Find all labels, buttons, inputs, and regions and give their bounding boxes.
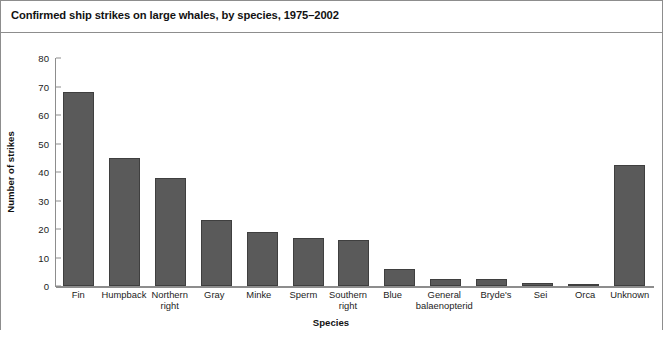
x-tick-label: Gray (192, 290, 237, 311)
bar-slot (148, 58, 194, 286)
y-tick-label: 0 (44, 281, 56, 292)
bar[interactable] (155, 178, 186, 286)
x-tick-label: Northernright (147, 290, 192, 311)
bar-slot (102, 58, 148, 286)
bar-slot (423, 58, 469, 286)
bar[interactable] (430, 279, 461, 286)
bar-slot (377, 58, 423, 286)
bar-series (56, 58, 652, 286)
x-axis-line (56, 286, 654, 288)
bar-slot (194, 58, 240, 286)
bar[interactable] (384, 269, 415, 286)
x-tick-label: Generalbalaenopterid (415, 290, 474, 311)
x-tick-label: Bryde's (474, 290, 519, 311)
y-tick-label: 60 (38, 110, 56, 121)
y-axis-label: Number of strikes (5, 131, 16, 213)
bar-slot (469, 58, 515, 286)
bar[interactable] (568, 284, 599, 286)
bar-slot (514, 58, 560, 286)
x-tick-label: Sperm (281, 290, 326, 311)
bar[interactable] (614, 165, 645, 286)
bar-slot (560, 58, 606, 286)
bar[interactable] (522, 283, 553, 286)
bar[interactable] (109, 158, 140, 286)
title-divider (1, 32, 663, 33)
y-tick-label: 10 (38, 252, 56, 263)
chart-figure: Confirmed ship strikes on large whales, … (0, 0, 663, 330)
bar[interactable] (338, 240, 369, 286)
x-tick-label: Blue (370, 290, 415, 311)
y-tick-label: 70 (38, 81, 56, 92)
y-tick-label: 20 (38, 224, 56, 235)
x-tick-label: Humpback (101, 290, 148, 311)
bar-slot (239, 58, 285, 286)
x-tick-label: Orca (563, 290, 608, 311)
x-axis-label: Species (313, 317, 349, 328)
plot-area: Number of strikes 01020304050607080 (56, 58, 652, 286)
chart-title: Confirmed ship strikes on large whales, … (11, 9, 339, 21)
bar[interactable] (476, 279, 507, 286)
x-tick-label: Unknown (607, 290, 652, 311)
bar[interactable] (247, 232, 278, 286)
bar[interactable] (201, 220, 232, 286)
x-tick-label: Southernright (326, 290, 371, 311)
x-tick-label: Fin (56, 290, 101, 311)
bar-slot (331, 58, 377, 286)
x-tick-label: Minke (237, 290, 282, 311)
y-tick-label: 80 (38, 53, 56, 64)
y-tick-label: 40 (38, 167, 56, 178)
bar-slot (285, 58, 331, 286)
bar[interactable] (63, 92, 94, 286)
x-tick-label: Sei (518, 290, 563, 311)
y-tick-label: 30 (38, 195, 56, 206)
bar-slot (606, 58, 652, 286)
x-axis-tick-labels: FinHumpbackNorthernrightGrayMinkeSpermSo… (56, 290, 652, 311)
bar-slot (56, 58, 102, 286)
y-tick-label: 50 (38, 138, 56, 149)
bar[interactable] (293, 238, 324, 286)
